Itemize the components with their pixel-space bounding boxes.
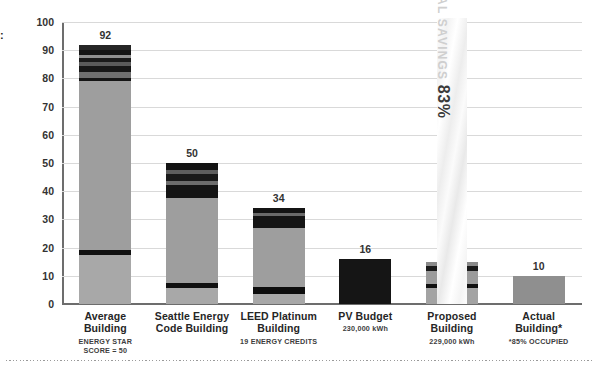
bar-group[interactable]: 34 bbox=[253, 22, 305, 304]
category-title: Average Building bbox=[64, 310, 147, 335]
bar-segment bbox=[166, 163, 218, 170]
y-tick-label: 10 bbox=[42, 270, 54, 282]
bar-segment bbox=[166, 288, 218, 304]
category-subtitle: 19 ENERGY CREDITS bbox=[237, 337, 320, 346]
y-tick-label: 60 bbox=[42, 129, 54, 141]
category-label: Average BuildingENERGY STARSCORE = 50 bbox=[64, 310, 147, 355]
bar-segment bbox=[426, 271, 478, 285]
category-label: Actual Building**85% OCCUPIED bbox=[497, 310, 580, 346]
bottom-dotted-divider bbox=[6, 360, 593, 361]
bar-segment bbox=[253, 294, 305, 304]
bar-group[interactable] bbox=[426, 22, 478, 304]
y-tick-label: 70 bbox=[42, 101, 54, 113]
category-subtitle: 230,000 kWh bbox=[324, 324, 407, 333]
bar-value-label: 50 bbox=[166, 147, 218, 159]
y-tick-label: 50 bbox=[42, 157, 54, 169]
bar-segment bbox=[166, 174, 218, 181]
bar-segment bbox=[166, 185, 218, 198]
bar-stack[interactable] bbox=[426, 262, 478, 304]
bar-value-label: 34 bbox=[253, 192, 305, 204]
energy-use-stacked-bar-chart: : 1009080706050403020100 9250341610TOTAL… bbox=[0, 0, 595, 368]
y-tick-label: 0 bbox=[48, 298, 54, 310]
category-title: LEED PlatinumBuilding bbox=[237, 310, 320, 335]
y-tick-label: 90 bbox=[42, 44, 54, 56]
category-title: Actual Building* bbox=[497, 310, 580, 335]
cropped-axis-title-glyph: : bbox=[0, 30, 8, 41]
x-axis-category-labels: Average BuildingENERGY STARSCORE = 50Sea… bbox=[62, 310, 582, 356]
bar-segment bbox=[253, 216, 305, 228]
y-tick-label: 80 bbox=[42, 72, 54, 84]
category-title: Seattle EnergyCode Building bbox=[151, 310, 234, 335]
bar-stack[interactable] bbox=[166, 163, 218, 304]
bar-value-label: 92 bbox=[79, 29, 131, 41]
bar-stack[interactable] bbox=[339, 259, 391, 304]
bar-value-label: 10 bbox=[513, 260, 565, 272]
category-label: PV Budget230,000 kWh bbox=[324, 310, 407, 334]
bar-segment bbox=[253, 228, 305, 287]
bar-segment bbox=[79, 255, 131, 304]
bar-segment bbox=[253, 287, 305, 294]
category-subtitle: *85% OCCUPIED bbox=[497, 337, 580, 346]
bar-stack[interactable] bbox=[253, 208, 305, 304]
category-title: Proposed Building bbox=[411, 310, 494, 335]
bar-segment bbox=[426, 288, 478, 304]
bar-stack[interactable] bbox=[513, 276, 565, 304]
bar-group[interactable]: 16 bbox=[339, 22, 391, 304]
bar-stack[interactable] bbox=[79, 45, 131, 304]
category-label: Proposed Building229,000 kWh bbox=[411, 310, 494, 346]
category-title: PV Budget bbox=[324, 310, 407, 322]
bar-group[interactable]: 10 bbox=[513, 22, 565, 304]
plot-area: 1009080706050403020100 9250341610TOTAL S… bbox=[62, 22, 582, 304]
bar-series-container: 9250341610TOTAL SAVINGS 83% bbox=[62, 22, 582, 304]
category-subtitle: ENERGY STARSCORE = 50 bbox=[64, 337, 147, 356]
y-tick-label: 30 bbox=[42, 213, 54, 225]
category-subtitle: 229,000 kWh bbox=[411, 337, 494, 346]
bar-segment bbox=[339, 259, 391, 304]
bar-group[interactable]: 92 bbox=[79, 22, 131, 304]
category-label: LEED PlatinumBuilding19 ENERGY CREDITS bbox=[237, 310, 320, 346]
bar-group[interactable]: 50 bbox=[166, 22, 218, 304]
bar-segment bbox=[79, 81, 131, 249]
category-label: Seattle EnergyCode Building bbox=[151, 310, 234, 335]
bar-segment bbox=[166, 198, 218, 283]
y-tick-label: 20 bbox=[42, 242, 54, 254]
bar-value-label: 16 bbox=[339, 243, 391, 255]
bar-segment bbox=[513, 276, 565, 304]
y-tick-label: 100 bbox=[36, 16, 54, 28]
y-tick-label: 40 bbox=[42, 185, 54, 197]
